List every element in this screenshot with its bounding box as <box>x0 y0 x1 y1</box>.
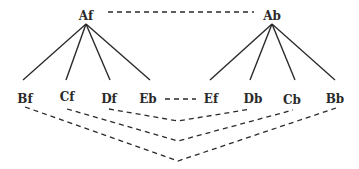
node-label-eb: Eb <box>139 92 157 106</box>
dashed-link-bf-bb <box>25 107 336 161</box>
edge-ab-cb <box>272 24 295 80</box>
node-label-df: Df <box>101 92 117 106</box>
node-label-ef: Ef <box>204 92 219 106</box>
node-label-bb: Bb <box>326 92 345 106</box>
dashed-link-cf-cb <box>67 109 293 141</box>
node-label-af: Af <box>78 9 94 23</box>
node-label-bf: Bf <box>17 92 33 106</box>
tree-ab-edges <box>210 24 335 80</box>
tree-af-edges <box>23 24 150 80</box>
node-label-db: Db <box>244 92 263 106</box>
edge-af-eb <box>86 24 150 80</box>
edge-ab-db <box>250 24 272 80</box>
edge-ab-bb <box>272 24 335 80</box>
node-label-cf: Cf <box>60 90 76 104</box>
edge-ab-ef <box>210 24 272 80</box>
node-label-ab: Ab <box>262 9 281 23</box>
tree-correspondence-diagram: Af Ab Bf Cf Df Eb Ef Db Cb Bb <box>0 0 359 169</box>
edge-af-df <box>86 24 110 80</box>
node-label-cb: Cb <box>283 93 301 107</box>
dashed-link-df-db <box>109 109 251 121</box>
